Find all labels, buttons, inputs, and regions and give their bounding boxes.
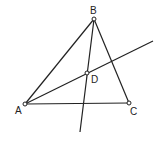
point-d-marker xyxy=(85,71,89,75)
label-b: B xyxy=(90,5,97,16)
segment-ac xyxy=(25,103,129,104)
label-c: C xyxy=(130,106,137,117)
point-markers xyxy=(23,17,131,106)
point-b-marker xyxy=(92,17,96,21)
point-c-marker xyxy=(127,101,131,105)
point-a-marker xyxy=(23,102,27,106)
label-d: D xyxy=(91,74,98,85)
label-a: A xyxy=(15,105,22,116)
geometry-diagram: A B C D xyxy=(0,0,155,151)
segment-ab xyxy=(25,19,94,104)
